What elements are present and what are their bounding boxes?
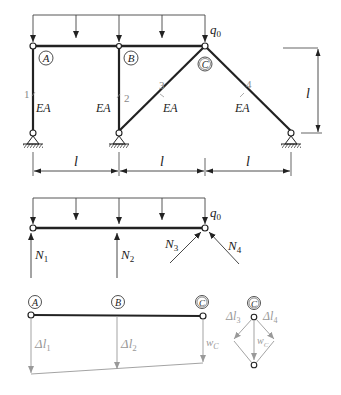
load-label: q0 (210, 22, 222, 39)
hinge-a (30, 43, 36, 49)
n1-label: N1 (34, 247, 48, 264)
svg-text:B: B (115, 297, 121, 308)
svg-text:B: B (128, 52, 135, 64)
bar-3-stiffness: EA (162, 101, 178, 115)
svg-text:A: A (31, 297, 39, 308)
displacement-figure: A B C Δl1 Δl2 wC C (28, 296, 277, 375)
wc-detail-label: wC (257, 335, 269, 349)
svg-text:C: C (199, 298, 206, 308)
distributed-load: q0 (33, 15, 222, 42)
bar-2-number: 2 (124, 92, 130, 104)
disp-node-b-label: B (112, 296, 125, 309)
wc-label: wC (206, 336, 219, 351)
n2-label: N2 (120, 247, 134, 264)
disp-node-a-label: A (29, 296, 42, 309)
disp-beam (31, 315, 203, 316)
bar-3-number: 3 (159, 79, 165, 91)
delta-l4-label: Δl4 (262, 309, 277, 325)
truss-diagram: q0 A B C 1 EA 2 EA (0, 0, 341, 395)
delta-l1-label: Δl1 (34, 336, 51, 353)
hinge-b (117, 44, 122, 49)
pin-support-right (281, 130, 301, 148)
free-body-figure: q0 N1 N2 N3 N4 (30, 198, 242, 278)
svg-text:C: C (251, 299, 258, 309)
pin-support-a (23, 130, 43, 148)
svg-text:l: l (160, 154, 164, 169)
height-dimension: l (283, 48, 322, 133)
svg-text:l: l (246, 154, 250, 169)
svg-text:C: C (202, 59, 209, 70)
bar-4-stiffness: EA (234, 101, 250, 115)
svg-text:A: A (42, 52, 50, 64)
delta-l2-label: Δl2 (120, 336, 137, 353)
bar-1-number: 1 (24, 88, 30, 100)
node-label-a: A (39, 51, 53, 65)
structure-figure: q0 A B C 1 EA 2 EA (23, 15, 322, 176)
fb-load-label: q0 (210, 205, 222, 222)
pin-support-b (109, 130, 129, 148)
bar-1-stiffness: EA (35, 101, 51, 115)
bar-4-number: 4 (246, 78, 252, 90)
delta-l3-label: Δl3 (225, 309, 240, 325)
svg-text:l: l (306, 86, 310, 101)
svg-text:l: l (74, 154, 78, 169)
n3-label: N3 (164, 236, 179, 253)
hinge-c (202, 43, 208, 49)
disp-node-c-label: C (196, 296, 209, 309)
n4-label: N4 (227, 238, 242, 255)
node-c-detail: C Δl3 Δl4 wC (225, 297, 277, 368)
bar-2-stiffness: EA (95, 101, 111, 115)
span-dimensions: l l l (33, 152, 291, 176)
node-label-b: B (124, 51, 138, 65)
node-label-c: C (198, 57, 212, 71)
